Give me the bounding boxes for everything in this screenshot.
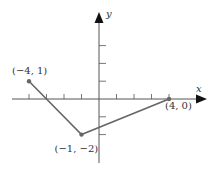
point-label: (4, 0) bbox=[165, 100, 192, 111]
coordinate-plot: (−4, 1)(−1, −2)(4, 0) x y bbox=[0, 0, 212, 169]
data-point bbox=[79, 132, 83, 136]
data-point bbox=[27, 79, 31, 83]
point-labels: (−4, 1)(−1, −2)(4, 0) bbox=[12, 65, 192, 153]
point-label: (−1, −2) bbox=[55, 143, 99, 154]
point-label: (−4, 1) bbox=[12, 65, 47, 76]
axes bbox=[12, 12, 207, 163]
x-axis-arrow-icon bbox=[196, 95, 207, 104]
y-axis-label: y bbox=[105, 8, 112, 19]
y-axis-arrow-icon bbox=[95, 12, 104, 23]
x-axis-label: x bbox=[196, 83, 202, 94]
